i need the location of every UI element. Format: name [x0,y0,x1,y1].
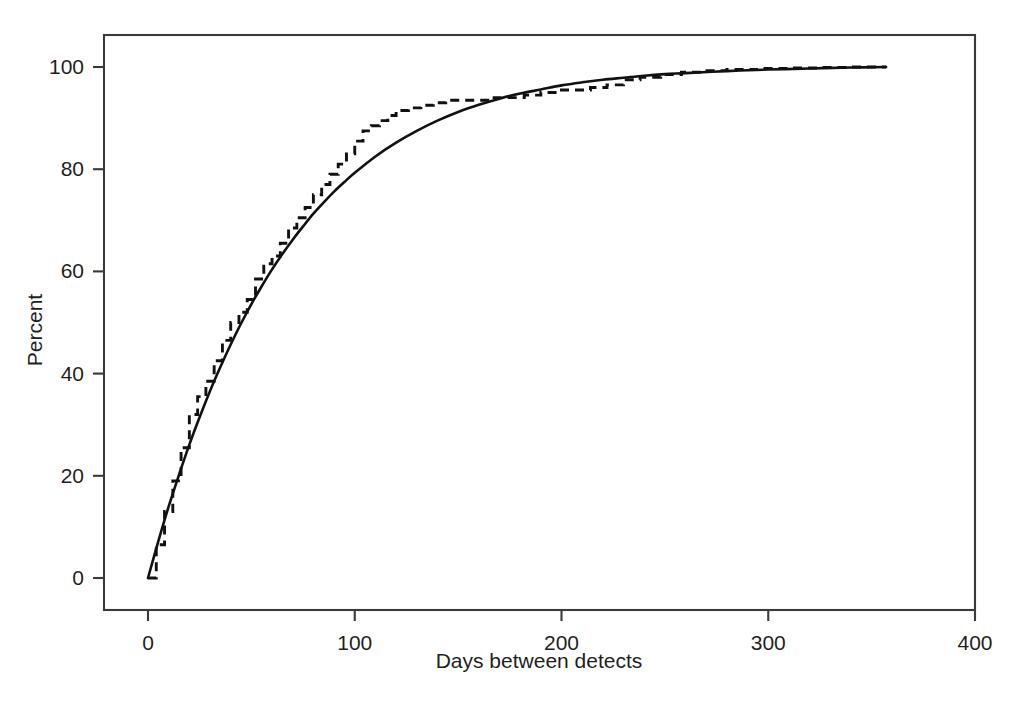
x-tick-label: 400 [957,631,992,654]
y-tick-label: 40 [61,362,84,385]
x-tick-label: 0 [142,631,154,654]
y-tick-label: 0 [72,566,84,589]
y-tick-label: 80 [61,157,84,180]
y-tick-label: 20 [61,464,84,487]
chart-background [0,0,1023,703]
y-tick-label: 60 [61,259,84,282]
y-tick-label: 100 [49,55,84,78]
chart-container: 0100200300400 020406080100 Days between … [0,0,1023,703]
y-axis-title: Percent [23,294,46,367]
x-axis-title: Days between detects [436,649,643,672]
x-tick-label: 100 [337,631,372,654]
x-tick-label: 300 [751,631,786,654]
cumulative-distribution-chart: 0100200300400 020406080100 Days between … [0,0,1023,703]
